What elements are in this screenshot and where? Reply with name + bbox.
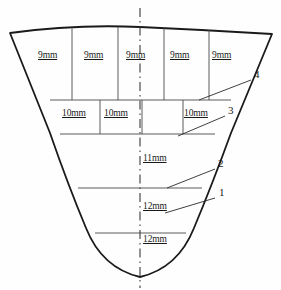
callout-label-4: 4 bbox=[254, 68, 260, 80]
vessel-outer-outline bbox=[10, 26, 272, 277]
callout-label-2: 2 bbox=[218, 157, 224, 169]
dimension-label-upper-5: 9mm bbox=[212, 50, 231, 60]
callout-4-leader bbox=[199, 80, 251, 100]
dimension-label-middle-3: 10mm bbox=[184, 108, 208, 118]
callout-label-3: 3 bbox=[228, 104, 234, 116]
callout-3-leader bbox=[178, 116, 225, 136]
callout-2-leader bbox=[167, 169, 215, 188]
dimension-label-upper-2: 9mm bbox=[84, 50, 103, 60]
diagram-canvas: 9mm 9mm 9mm 9mm 9mm 10mm 10mm 10mm 11mm … bbox=[0, 0, 281, 290]
dimension-label-upper-3: 9mm bbox=[126, 50, 145, 60]
dimension-label-lower-1: 11mm bbox=[143, 153, 167, 163]
dimension-label-middle-1: 10mm bbox=[62, 108, 86, 118]
callout-1-leader bbox=[165, 198, 215, 213]
dimension-label-upper-1: 9mm bbox=[38, 50, 57, 60]
dimension-label-lower-2: 12mm bbox=[143, 201, 167, 211]
callout-label-1: 1 bbox=[219, 186, 225, 198]
dimension-label-upper-4: 9mm bbox=[170, 50, 189, 60]
vessel-cross-section-drawing bbox=[0, 0, 281, 290]
dimension-label-lower-3: 12mm bbox=[143, 234, 167, 244]
dimension-label-middle-2: 10mm bbox=[104, 108, 128, 118]
